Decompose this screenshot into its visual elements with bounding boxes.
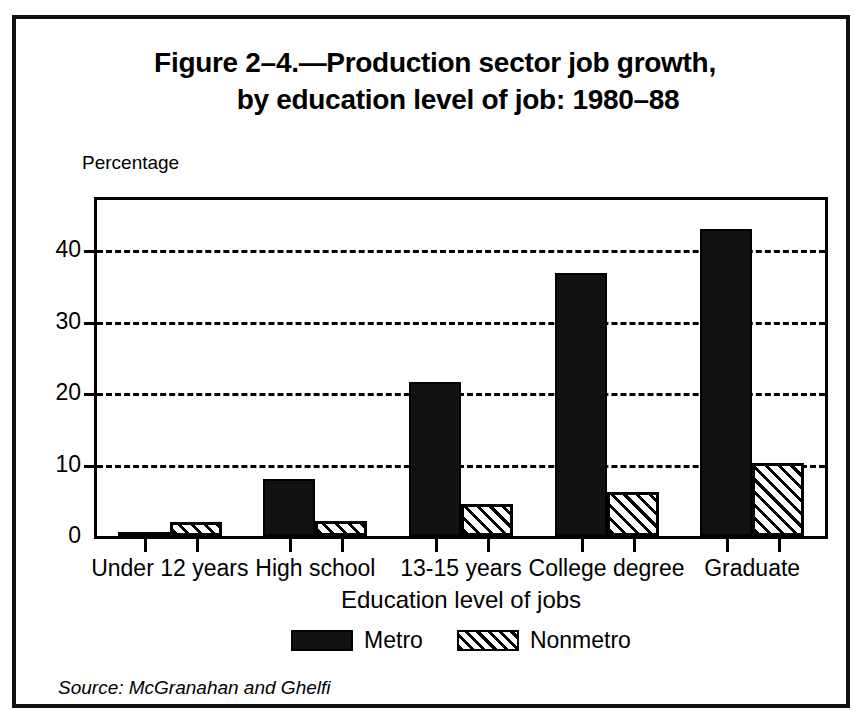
- y-axis-tick: [84, 322, 97, 325]
- figure-title: Figure 2–4.—Production sector job growth…: [16, 44, 854, 118]
- legend-swatch-metro-icon: [291, 630, 353, 651]
- x-axis-tick: [341, 539, 344, 552]
- x-axis-tick: [289, 539, 292, 552]
- x-axis-tick: [581, 539, 584, 552]
- x-axis-tick: [726, 539, 729, 552]
- bar-nonmetro-2: [315, 521, 367, 536]
- x-axis-label: 13-15 years: [400, 555, 521, 582]
- legend-swatch-nonmetro-icon: [457, 630, 519, 651]
- x-axis-tick: [435, 539, 438, 552]
- x-axis-title: Education level of jobs: [94, 586, 828, 614]
- x-axis-tick: [144, 539, 147, 552]
- legend-label-nonmetro: Nonmetro: [530, 627, 631, 654]
- legend-item-metro: Metro: [291, 627, 423, 654]
- y-axis-tick: [84, 250, 97, 253]
- bar-nonmetro-4: [607, 492, 659, 536]
- plot-area: 010203040: [94, 197, 828, 539]
- figure-title-line-1: Figure 2–4.—Production sector job growth…: [16, 44, 854, 81]
- y-axis-tick-label: 40: [55, 238, 81, 261]
- legend-item-nonmetro: Nonmetro: [457, 627, 631, 654]
- y-axis-tick: [84, 393, 97, 396]
- x-axis-label: College degree: [529, 555, 685, 582]
- chart-legend: Metro Nonmetro: [94, 627, 828, 654]
- plot-inner: 010203040: [97, 200, 825, 536]
- figure-border: Figure 2–4.—Production sector job growth…: [12, 15, 850, 708]
- bar-nonmetro-5: [752, 463, 804, 536]
- y-axis-tick-label: 0: [68, 524, 81, 547]
- bar-metro-1: [118, 532, 170, 536]
- bar-metro-2: [263, 479, 315, 536]
- x-axis-tick: [196, 539, 199, 552]
- y-axis-tick-label: 30: [55, 310, 81, 333]
- x-axis-label: Under 12 years: [91, 555, 248, 582]
- legend-label-metro: Metro: [364, 627, 423, 654]
- bar-nonmetro-3: [461, 504, 513, 536]
- x-axis-label: High school: [255, 555, 375, 582]
- x-axis-tick: [487, 539, 490, 552]
- bar-nonmetro-1: [170, 522, 222, 536]
- bar-metro-4: [555, 273, 607, 536]
- y-axis-caption: Percentage: [82, 152, 179, 174]
- x-axis-tick: [633, 539, 636, 552]
- y-axis-tick-label: 20: [55, 381, 81, 404]
- source-note: Source: McGranahan and Ghelfi: [58, 677, 331, 699]
- figure-title-line-2: by education level of job: 1980–88: [16, 81, 854, 118]
- y-axis-tick-label: 10: [55, 453, 81, 476]
- bar-metro-5: [700, 229, 752, 536]
- x-axis-tick: [778, 539, 781, 552]
- x-axis-label: Graduate: [704, 555, 800, 582]
- y-axis-tick: [84, 465, 97, 468]
- bar-metro-3: [409, 382, 461, 536]
- figure-page: Figure 2–4.—Production sector job growth…: [0, 0, 866, 725]
